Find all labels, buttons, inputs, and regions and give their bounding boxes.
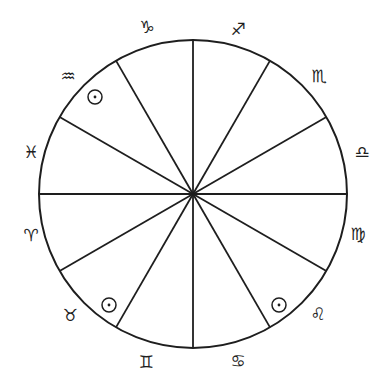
zodiac-wheel: ♑︎♐︎♏︎♎︎♍︎♌︎♋︎♊︎♉︎♈︎♓︎♒︎ <box>0 0 388 392</box>
sun-icon <box>272 298 286 312</box>
sun-markers-group <box>88 90 286 312</box>
pisces-icon: ♓︎ <box>23 142 38 162</box>
aries-icon: ♈︎ <box>23 225 38 245</box>
spoke-line <box>193 61 270 194</box>
spoke-line <box>60 117 193 194</box>
sagittarius-icon: ♐︎ <box>230 19 245 39</box>
spoke-line <box>116 61 193 194</box>
spoke-line <box>193 194 270 327</box>
virgo-icon: ♍︎ <box>350 224 365 244</box>
gemini-icon: ♊︎ <box>138 352 153 372</box>
scorpio-icon: ♏︎ <box>311 66 326 86</box>
libra-icon: ♎︎ <box>354 142 369 162</box>
spoke-line <box>193 117 326 194</box>
leo-icon: ♌︎ <box>310 304 325 324</box>
aquarius-icon: ♒︎ <box>60 66 75 86</box>
spokes-group <box>39 40 347 348</box>
spoke-line <box>60 194 193 271</box>
sun-icon <box>88 90 102 104</box>
capricorn-icon: ♑︎ <box>139 17 154 37</box>
taurus-icon: ♉︎ <box>62 305 77 325</box>
cancer-icon: ♋︎ <box>230 351 245 371</box>
spoke-line <box>193 194 326 271</box>
sun-icon <box>102 298 116 312</box>
spoke-line <box>116 194 193 327</box>
